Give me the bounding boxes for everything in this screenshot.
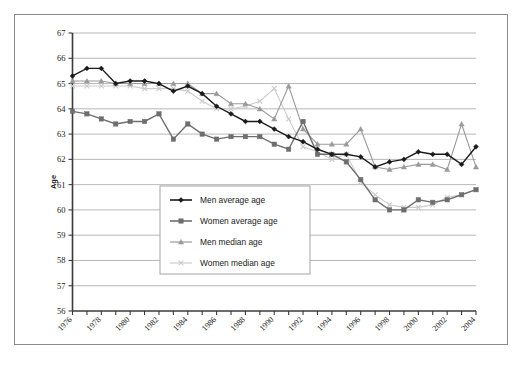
data-point-marker — [200, 132, 204, 136]
series-men-median-age — [70, 78, 479, 171]
data-point-marker — [258, 134, 262, 138]
data-point-marker — [416, 149, 421, 154]
y-tick-label: 66 — [57, 53, 66, 63]
data-point-marker — [272, 127, 277, 132]
data-point-marker — [243, 134, 247, 138]
x-tick-label: 1980 — [114, 315, 132, 333]
data-point-marker — [301, 119, 305, 123]
data-point-marker — [186, 122, 190, 126]
data-point-marker — [431, 200, 435, 204]
data-point-marker — [272, 142, 276, 146]
data-point-marker — [359, 177, 363, 181]
data-point-marker — [157, 112, 161, 116]
legend-label: Women average age — [200, 216, 278, 226]
data-point-marker — [301, 144, 306, 149]
data-point-marker — [315, 152, 319, 156]
x-tick-label: 1990 — [258, 315, 276, 333]
x-tick-label: 2002 — [431, 315, 449, 333]
x-tick-label: 1984 — [171, 315, 189, 333]
legend-marker-square-icon — [179, 219, 183, 223]
x-tick-label: 1976 — [56, 315, 74, 333]
legend-label: Women median age — [200, 258, 275, 268]
data-point-marker — [473, 164, 478, 169]
data-point-marker — [387, 159, 392, 164]
data-point-marker — [286, 83, 291, 88]
x-tick-label: 1998 — [373, 315, 391, 333]
chart-container: 565758596061626364656667 197619781980198… — [0, 0, 524, 365]
data-point-marker — [474, 187, 478, 191]
data-point-marker — [387, 208, 391, 212]
data-point-marker — [128, 119, 132, 123]
data-point-marker — [286, 117, 291, 122]
x-tick-label: 2004 — [459, 315, 477, 333]
y-tick-label: 63 — [57, 129, 66, 139]
x-tick-label: 1988 — [229, 315, 247, 333]
data-point-marker — [430, 152, 435, 157]
y-tick-label: 62 — [57, 154, 66, 164]
data-point-marker — [272, 86, 277, 91]
data-point-marker — [85, 66, 90, 71]
data-point-marker — [214, 137, 218, 141]
x-tick-label: 1986 — [200, 315, 218, 333]
data-point-marker — [99, 117, 103, 121]
data-point-marker — [344, 160, 348, 164]
data-point-marker — [229, 111, 234, 116]
data-point-marker — [200, 99, 205, 104]
data-point-marker — [459, 193, 463, 197]
series-line — [73, 81, 477, 169]
y-axis-title: Age — [49, 175, 58, 189]
y-tick-label: 56 — [57, 306, 66, 316]
data-point-marker — [286, 134, 291, 139]
x-tick-label: 1994 — [315, 315, 333, 333]
y-tick-label: 59 — [57, 230, 66, 240]
data-point-marker — [142, 119, 146, 123]
data-point-marker — [85, 112, 89, 116]
data-point-marker — [70, 109, 74, 113]
legend-label: Men average age — [200, 195, 266, 205]
data-point-marker — [286, 147, 290, 151]
y-tick-label: 64 — [57, 104, 66, 114]
y-tick-label: 61 — [57, 180, 66, 190]
data-point-marker — [114, 122, 118, 126]
data-point-marker — [142, 79, 147, 84]
y-tick-label: 67 — [57, 28, 66, 38]
data-point-marker — [229, 134, 233, 138]
y-tick-label: 60 — [57, 205, 66, 215]
data-point-marker — [128, 79, 133, 84]
data-point-marker — [171, 137, 175, 141]
x-axis-ticks-group: 1976197819801982198419861988199019921994… — [56, 311, 477, 333]
data-point-marker — [70, 74, 75, 79]
y-tick-label: 58 — [57, 255, 66, 265]
legend-label: Men median age — [200, 237, 263, 247]
x-tick-label: 1992 — [287, 315, 305, 333]
data-point-marker — [257, 119, 262, 124]
x-tick-label: 1982 — [142, 315, 160, 333]
x-tick-label: 1996 — [344, 315, 362, 333]
data-point-marker — [243, 119, 248, 124]
legend-group: Men average ageWomen average ageMen medi… — [160, 186, 310, 274]
data-point-marker — [373, 198, 377, 202]
chart-svg: 565758596061626364656667 197619781980198… — [0, 0, 524, 365]
y-tick-label: 65 — [57, 79, 66, 89]
data-point-marker — [402, 157, 407, 162]
y-axis-ticks-group: 565758596061626364656667 — [57, 28, 73, 316]
y-tick-label: 57 — [57, 281, 66, 291]
x-tick-label: 1978 — [85, 315, 103, 333]
data-point-marker — [257, 99, 262, 104]
data-point-marker — [445, 198, 449, 202]
data-point-marker — [402, 208, 406, 212]
data-point-marker — [358, 126, 363, 131]
data-point-marker — [459, 121, 464, 126]
data-point-marker — [416, 198, 420, 202]
x-tick-label: 2000 — [402, 315, 420, 333]
